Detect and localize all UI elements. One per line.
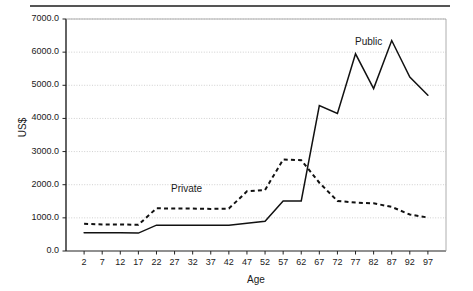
x-tick-label: 77 bbox=[346, 258, 366, 267]
x-tick-label: 57 bbox=[273, 258, 293, 267]
x-tick-label: 62 bbox=[291, 258, 311, 267]
axis-ticks-group bbox=[63, 19, 428, 255]
x-tick-label: 92 bbox=[400, 258, 420, 267]
y-tick-label: 2000.0 bbox=[15, 180, 59, 189]
x-tick-label: 7 bbox=[92, 258, 112, 267]
x-tick-label: 82 bbox=[364, 258, 384, 267]
x-tick-label: 87 bbox=[382, 258, 402, 267]
x-tick-label: 32 bbox=[183, 258, 203, 267]
axis-frame-group bbox=[66, 19, 446, 251]
x-tick-label: 2 bbox=[74, 258, 94, 267]
x-tick-label: 12 bbox=[110, 258, 130, 267]
series-label-private: Private bbox=[171, 183, 202, 194]
y-tick-label: 0.0 bbox=[15, 246, 59, 255]
x-tick-label: 47 bbox=[237, 258, 257, 267]
x-tick-label: 17 bbox=[128, 258, 148, 267]
x-tick-label: 22 bbox=[146, 258, 166, 267]
series-line-private bbox=[84, 160, 428, 225]
x-tick-label: 42 bbox=[219, 258, 239, 267]
x-tick-label: 72 bbox=[327, 258, 347, 267]
y-tick-label: 5000.0 bbox=[15, 80, 59, 89]
y-axis-title: US$ bbox=[17, 98, 28, 158]
plot-canvas bbox=[0, 0, 473, 291]
x-tick-label: 97 bbox=[418, 258, 438, 267]
y-tick-label: 7000.0 bbox=[15, 14, 59, 23]
line-chart: 0.01000.02000.03000.04000.05000.06000.07… bbox=[0, 0, 473, 291]
x-tick-label: 37 bbox=[201, 258, 221, 267]
series-label-public: Public bbox=[355, 36, 382, 47]
y-tick-label: 6000.0 bbox=[15, 47, 59, 56]
x-axis-title: Age bbox=[206, 274, 306, 285]
x-tick-label: 27 bbox=[165, 258, 185, 267]
data-series-group bbox=[84, 41, 428, 234]
x-tick-label: 67 bbox=[309, 258, 329, 267]
chart-figure: 0.01000.02000.03000.04000.05000.06000.07… bbox=[0, 0, 473, 291]
y-tick-label: 1000.0 bbox=[15, 213, 59, 222]
x-tick-label: 52 bbox=[255, 258, 275, 267]
